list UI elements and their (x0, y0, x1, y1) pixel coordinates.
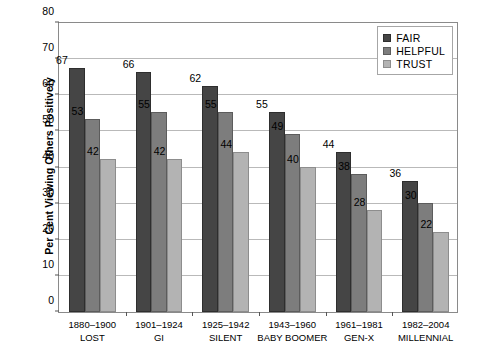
bar-value-label: 53 (72, 106, 84, 117)
bar-value-label: 30 (405, 190, 417, 201)
x-axis-label-years: 1901–1924 (135, 319, 183, 330)
y-tick-label: 50 (42, 113, 54, 125)
bar-value-label: 36 (389, 168, 401, 179)
legend-label: TRUST (396, 58, 432, 70)
bar[interactable] (269, 112, 285, 312)
x-axis-group-label: 1901–1924GI (135, 319, 183, 344)
y-tick-label: 60 (42, 77, 54, 89)
bar[interactable] (202, 86, 218, 312)
bar[interactable] (367, 210, 383, 312)
bar[interactable] (100, 159, 116, 312)
bar-value-label: 62 (189, 73, 201, 84)
y-tick-label: 20 (42, 222, 54, 234)
x-axis-label-years: 1925–1942 (202, 319, 250, 330)
x-axis-label-years: 1961–1981 (335, 319, 383, 330)
x-axis-label-years: 1880–1900 (69, 319, 117, 330)
bar-value-label: 67 (56, 55, 68, 66)
x-axis-label-generation: MILLENNIAL (398, 332, 453, 345)
bar-group: 665542 (126, 23, 193, 312)
legend-item[interactable]: TRUST (383, 57, 445, 70)
y-tick-label: 70 (42, 41, 54, 53)
x-axis-label-generation: SILENT (202, 332, 250, 345)
x-axis-label-generation: GI (135, 332, 183, 345)
bar-value-label: 40 (287, 154, 299, 165)
x-axis-label-years: 1982–2004 (402, 319, 450, 330)
bar-value-label: 22 (420, 219, 432, 230)
bar[interactable] (433, 232, 449, 312)
y-tick-label: 0 (48, 294, 54, 306)
bar-group: 554940 (259, 23, 326, 312)
x-axis-group-label: 1943–1960BABY BOOMER (257, 319, 327, 344)
x-tick-mark (326, 312, 327, 316)
bar-value-label: 28 (354, 197, 366, 208)
bar-value-label: 55 (256, 99, 268, 110)
legend-swatch-icon (383, 60, 391, 68)
x-tick-mark (126, 312, 127, 316)
bar-value-label: 38 (338, 161, 350, 172)
bar-value-label: 44 (220, 139, 232, 150)
x-tick-mark (259, 312, 260, 316)
x-axis-group-label: 1880–1900LOST (69, 319, 117, 344)
y-tick-label: 80 (42, 5, 54, 17)
bar-value-label: 49 (272, 121, 284, 132)
bar[interactable] (300, 167, 316, 313)
bar[interactable] (233, 152, 249, 312)
x-axis-group-label: 1982–2004MILLENNIAL (398, 319, 453, 344)
x-axis-label-years: 1943–1960 (269, 319, 317, 330)
bar-value-label: 42 (154, 146, 166, 157)
x-axis-label-generation: GEN-X (335, 332, 383, 345)
bar-value-label: 55 (205, 99, 217, 110)
x-axis-group-label: 1961–1981GEN-X (335, 319, 383, 344)
bar[interactable] (336, 152, 352, 312)
y-tick-label: 30 (42, 186, 54, 198)
bar[interactable] (167, 159, 183, 312)
legend-swatch-icon (383, 34, 391, 42)
legend-swatch-icon (383, 47, 391, 55)
legend-item[interactable]: HELPFUL (383, 44, 445, 57)
y-tick-label: 40 (42, 150, 54, 162)
bar-value-label: 55 (138, 99, 150, 110)
x-axis-group-label: 1925–1942SILENT (202, 319, 250, 344)
bar-value-label: 42 (87, 146, 99, 157)
legend-item[interactable]: FAIR (383, 31, 445, 44)
legend-label: FAIR (396, 32, 420, 44)
x-tick-mark (392, 312, 393, 316)
plot-area: 01020304050607080 6753426655426255445549… (58, 22, 458, 313)
y-tick-label: 10 (42, 258, 54, 270)
bar-value-label: 66 (123, 59, 135, 70)
x-tick-mark (192, 312, 193, 316)
bar[interactable] (351, 174, 367, 312)
bar-chart: Per Cent Viewing Others Positively 01020… (0, 0, 477, 356)
legend: FAIRHELPFULTRUST (377, 26, 453, 75)
legend-label: HELPFUL (396, 45, 445, 57)
x-axis-label-generation: LOST (69, 332, 117, 345)
bar-group: 675342 (59, 23, 126, 312)
bar[interactable] (151, 112, 167, 312)
bar-group: 625544 (192, 23, 259, 312)
bar-value-label: 44 (323, 139, 335, 150)
x-axis-label-generation: BABY BOOMER (257, 332, 327, 345)
